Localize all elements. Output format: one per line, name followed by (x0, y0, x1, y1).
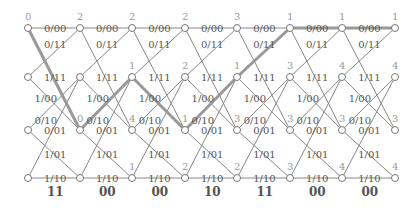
branch-label: 0/01 (358, 125, 380, 136)
branch-label: 1/11 (44, 72, 66, 83)
path-metric: 4 (392, 60, 398, 71)
path-metric: 3 (287, 60, 293, 71)
path-metric: 2 (77, 11, 83, 22)
branch-label: 1/00 (139, 93, 161, 104)
branch-label: 1/00 (35, 93, 57, 104)
branch-label: 1/10 (358, 173, 380, 184)
branch-label: 0/11 (358, 39, 380, 50)
path-metric: 3 (392, 113, 398, 124)
path-metric: 3 (287, 113, 293, 124)
state-node (77, 127, 84, 134)
state-node (25, 25, 32, 32)
state-node (287, 127, 294, 134)
branch-label: 0/11 (96, 39, 118, 50)
state-node (392, 25, 399, 32)
branch-label: 1/01 (96, 149, 118, 160)
path-metrics: 020214122123132133314341434 (25, 11, 398, 172)
state-node (339, 25, 346, 32)
state-node (392, 127, 399, 134)
path-metric: 4 (339, 60, 345, 71)
branch-label: 0/00 (96, 23, 118, 34)
state-node (234, 127, 241, 134)
path-metric: 1 (129, 60, 135, 71)
survivor-branch (237, 28, 290, 77)
state-node (129, 175, 136, 182)
branch-label: 1/00 (192, 93, 214, 104)
received-symbol: 10 (204, 185, 221, 199)
state-node (287, 74, 294, 81)
state-node (77, 25, 84, 32)
path-metric: 1 (392, 11, 398, 22)
branch-label: 1/00 (297, 93, 319, 104)
branch-label: 1/10 (96, 173, 118, 184)
path-metric: 2 (182, 161, 188, 172)
branch-label: 1/10 (44, 173, 66, 184)
path-metric: 1 (234, 60, 240, 71)
branch-label: 0/01 (253, 125, 275, 136)
branch-label: 0/00 (201, 23, 223, 34)
state-node (339, 74, 346, 81)
path-metric: 4 (392, 161, 398, 172)
trellis-branch (80, 28, 132, 77)
state-node (182, 127, 189, 134)
path-metric: 2 (182, 60, 188, 71)
trellis-diagram: 0/000/111/111/000/100/011/011/100/000/11… (0, 0, 419, 210)
state-node (234, 175, 241, 182)
branch-label: 1/11 (253, 72, 275, 83)
branch-label: 1/01 (358, 149, 380, 160)
state-node (339, 127, 346, 134)
branch-label: 1/11 (96, 72, 118, 83)
branch-label: 1/10 (253, 173, 275, 184)
state-node (129, 74, 136, 81)
state-node (287, 175, 294, 182)
branch-label: 0/11 (201, 39, 223, 50)
state-node (182, 25, 189, 32)
branch-label: 0/00 (148, 23, 170, 34)
state-node (77, 74, 84, 81)
path-metric: 0 (25, 11, 31, 22)
state-node (129, 127, 136, 134)
state-node (339, 175, 346, 182)
state-node (25, 175, 32, 182)
branch-label: 1/10 (201, 173, 223, 184)
branch-label: 1/00 (349, 93, 371, 104)
branch-label: 1/10 (306, 173, 328, 184)
state-node (182, 175, 189, 182)
branch-label: 0/00 (253, 23, 275, 34)
path-metric: 3 (234, 11, 240, 22)
branch-label: 0/11 (306, 39, 328, 50)
received-symbol: 00 (99, 185, 116, 199)
branch-label: 0/11 (253, 39, 275, 50)
branch-label: 1/11 (148, 72, 170, 83)
branch-label: 0/11 (148, 39, 170, 50)
branch-label: 1/01 (253, 149, 275, 160)
branch-label: 0/00 (358, 23, 380, 34)
state-node (129, 25, 136, 32)
branch-label: 0/01 (148, 125, 170, 136)
received-symbol: 11 (257, 185, 274, 199)
branch-label: 0/00 (44, 23, 66, 34)
branch-label: 1/01 (148, 149, 170, 160)
branch-label: 1/11 (358, 72, 380, 83)
state-node (182, 74, 189, 81)
trellis-branch (132, 28, 185, 77)
state-node (77, 175, 84, 182)
branch-label: 1/01 (306, 149, 328, 160)
state-node (392, 175, 399, 182)
path-metric: 3 (234, 113, 240, 124)
state-node (234, 74, 241, 81)
trellis-branch (290, 28, 342, 77)
received-symbols: 11000010110000 (47, 185, 378, 199)
received-symbol: 00 (309, 185, 326, 199)
received-symbol: 11 (47, 185, 64, 199)
trellis-branch (185, 28, 237, 77)
branch-label: 1/00 (244, 93, 266, 104)
branch-label: 0/11 (44, 39, 66, 50)
received-symbol: 00 (362, 185, 379, 199)
branch-label: 1/01 (201, 149, 223, 160)
path-metric: 2 (234, 161, 240, 172)
path-metric: 3 (339, 113, 345, 124)
path-metric: 4 (129, 113, 135, 124)
state-node (25, 74, 32, 81)
path-metric: 2 (129, 11, 135, 22)
